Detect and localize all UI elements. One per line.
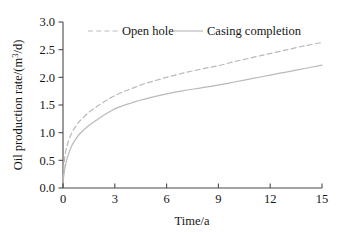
y-tick-label: 2.5 — [39, 43, 55, 57]
y-tick-label: 2.0 — [39, 71, 55, 85]
oil-production-rate-line-chart: 0.00.51.01.52.02.53.0 03691215 Time/a Oi… — [0, 0, 345, 232]
legend-label-casing-completion: Casing completion — [207, 24, 302, 38]
x-tick-label: 0 — [60, 192, 66, 206]
x-axis-title: Time/a — [175, 214, 210, 228]
y-axis-title-prefix: Oil production rate/(m — [11, 58, 25, 171]
y-tick-label: 0.0 — [39, 181, 55, 195]
y-tick-label: 1.0 — [39, 126, 55, 140]
y-tick-label: 1.5 — [39, 98, 55, 112]
y-tick-label: 0.5 — [39, 154, 55, 168]
legend-label-open-hole: Open hole — [122, 24, 174, 38]
y-tick-label: 3.0 — [39, 15, 55, 29]
x-tick-label: 9 — [215, 192, 221, 206]
y-axis-title: Oil production rate/(m3/d) — [10, 40, 25, 171]
x-tick-label: 15 — [316, 192, 329, 206]
y-axis-title-suffix: /d) — [11, 40, 25, 54]
x-tick-label: 6 — [163, 192, 169, 206]
x-tick-label: 3 — [112, 192, 118, 206]
svg-text:Oil production rate/(m3/d): Oil production rate/(m3/d) — [10, 40, 25, 171]
x-tick-label: 12 — [264, 192, 277, 206]
chart-figure: 0.00.51.01.52.02.53.0 03691215 Time/a Oi… — [0, 0, 345, 232]
